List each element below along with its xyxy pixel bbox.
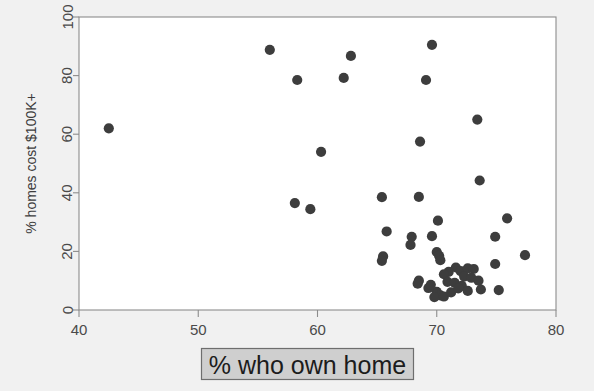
y-tick-label: 40 [59,184,76,201]
scatter-point [265,45,275,55]
scatter-point [413,279,423,289]
scatter-point [502,213,512,223]
scatter-point [433,216,443,226]
scatter-point [426,280,436,290]
scatter-point [494,285,504,295]
scatter-point [290,198,300,208]
y-tick-label: 100 [59,4,76,29]
scatter-point [427,231,437,241]
scatter-point [472,114,482,124]
scatter-point [377,256,387,266]
scatter-point [476,284,486,294]
scatter-point [316,147,326,157]
scatter-point [104,123,114,133]
x-tick-label: 50 [190,321,207,338]
y-axis-label: % homes cost $100K+ [23,93,39,233]
scatter-point [292,75,302,85]
scatter-point [346,51,356,61]
scatter-point [421,75,431,85]
plot-area-background [79,17,556,310]
x-tick-label: 80 [548,321,565,338]
scatter-plot: 0204060801004050607080 % homes cost $100… [0,0,594,391]
y-tick-label: 60 [59,126,76,143]
x-tick-label: 70 [428,321,445,338]
scatter-point [463,286,473,296]
scatter-point [427,40,437,50]
scatter-point [339,73,349,83]
scatter-point [490,259,500,269]
x-tick-label: 40 [71,321,88,338]
x-tick-label: 60 [309,321,326,338]
y-tick-label: 0 [59,306,76,314]
scatter-point [469,264,479,274]
scatter-point [405,240,415,250]
y-tick-label: 80 [59,67,76,84]
scatter-point [453,283,463,293]
scatter-point [435,255,445,265]
scatter-point [490,232,500,242]
scatter-point [429,292,439,302]
x-axis-label: % who own home [209,351,406,379]
scatter-point [305,204,315,214]
figure-canvas: 0204060801004050607080 % homes cost $100… [0,0,594,391]
scatter-point [520,250,530,260]
scatter-point [377,192,387,202]
y-tick-label: 20 [59,243,76,260]
scatter-point [382,226,392,236]
scatter-point [473,276,483,286]
plot-frame [79,17,556,310]
scatter-point [414,192,424,202]
scatter-point [475,175,485,185]
scatter-point [415,136,425,146]
